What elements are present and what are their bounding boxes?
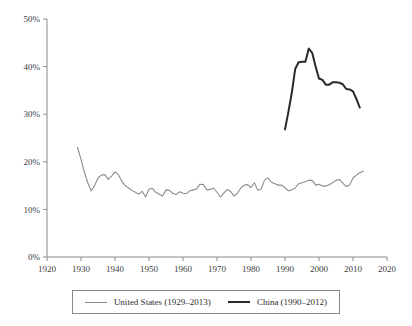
- x-axis: 1920193019401950196019701980199020002010…: [38, 257, 397, 274]
- legend-item-label: China (1990–2012): [257, 297, 327, 307]
- chart-legend: United States (1929–2013) China (1990–20…: [72, 290, 340, 314]
- x-axis-tick-label: 1970: [208, 264, 227, 274]
- legend-line-swatch-icon: [228, 301, 250, 303]
- series-line-united-states: [78, 148, 364, 198]
- x-axis-tick-label: 2010: [344, 264, 363, 274]
- y-axis-tick-label: 50%: [24, 14, 41, 24]
- x-axis-tick-label: 1990: [276, 264, 295, 274]
- y-axis-tick-label: 20%: [24, 157, 41, 167]
- x-axis-tick-label: 1930: [72, 264, 91, 274]
- x-axis-tick-label: 2000: [310, 264, 329, 274]
- chart-figure: 0%10%20%30%40%50% 1920193019401950196019…: [0, 0, 412, 326]
- x-axis-tick-label: 1940: [106, 264, 125, 274]
- line-chart-svg: 0%10%20%30%40%50% 1920193019401950196019…: [0, 0, 412, 280]
- legend-item-china[interactable]: China (1990–2012): [228, 297, 327, 307]
- legend-item-united-states[interactable]: United States (1929–2013): [85, 297, 211, 307]
- legend-line-swatch-icon: [85, 302, 107, 303]
- series-line-china: [285, 49, 360, 130]
- x-axis-tick-label: 2020: [378, 264, 397, 274]
- data-series-group: [78, 49, 364, 198]
- y-axis: 0%10%20%30%40%50%: [24, 14, 48, 262]
- chart-plot-area: 0%10%20%30%40%50% 1920193019401950196019…: [0, 0, 412, 280]
- x-axis-tick-label: 1950: [140, 264, 159, 274]
- x-axis-tick-label: 1920: [38, 264, 57, 274]
- y-axis-tick-label: 0%: [28, 252, 41, 262]
- y-axis-tick-label: 10%: [24, 205, 41, 215]
- x-axis-tick-label: 1980: [242, 264, 261, 274]
- x-axis-tick-label: 1960: [174, 264, 193, 274]
- y-axis-tick-label: 40%: [24, 62, 41, 72]
- y-axis-tick-label: 30%: [24, 109, 41, 119]
- legend-item-label: United States (1929–2013): [114, 297, 211, 307]
